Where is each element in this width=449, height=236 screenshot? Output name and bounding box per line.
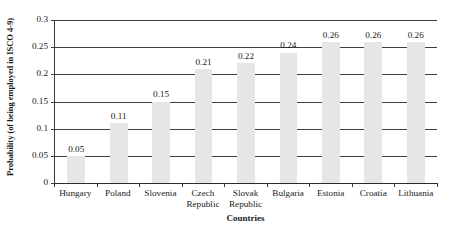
x-axis-title: Countries	[54, 213, 437, 223]
bar: 0.22	[237, 63, 255, 183]
y-axis-tick-label: 0.15	[32, 97, 48, 106]
x-axis-category-label: Hungary	[54, 188, 97, 209]
x-axis-category-label: Poland	[97, 188, 140, 209]
x-axis-category-label-line: Slovenia	[139, 188, 182, 199]
y-axis-title: Probability (of being employed in ISCO 4…	[3, 4, 17, 190]
x-axis-category-label-line: Slovak	[224, 188, 267, 199]
x-axis-category-label-line: Czech	[182, 188, 225, 199]
y-axis-tick-label-group: 00.050.10.150.20.250.3	[18, 20, 52, 183]
x-axis-category-label: CzechRepublic	[182, 188, 225, 209]
x-axis-category-label-line: Poland	[97, 188, 140, 199]
bar: 0.21	[195, 69, 213, 183]
x-axis-category-label-line: Croatia	[352, 188, 395, 199]
x-axis-tick-mark	[394, 183, 395, 187]
x-axis-tick-mark	[139, 183, 140, 187]
bar-value-label: 0.15	[153, 90, 169, 99]
bar-value-label: 0.26	[365, 31, 381, 40]
x-axis-category-label: Bulgaria	[267, 188, 310, 209]
x-axis-tick-mark	[352, 183, 353, 187]
x-axis-tick-mark	[97, 183, 98, 187]
bar-slot: 0.15	[140, 20, 182, 183]
bar-slot: 0.26	[352, 20, 394, 183]
bar: 0.26	[407, 42, 425, 183]
x-axis-category-label: Croatia	[352, 188, 395, 209]
bar: 0.15	[152, 102, 170, 184]
bar: 0.11	[110, 123, 128, 183]
y-axis-tick-label: 0.05	[32, 151, 48, 160]
x-axis-category-label: Lithuania	[395, 188, 438, 209]
x-axis-category-label: SlovakRepublic	[224, 188, 267, 209]
bar-value-label: 0.05	[68, 145, 84, 154]
x-axis-tick-mark	[267, 183, 268, 187]
y-axis-tick-label: 0.2	[37, 70, 48, 79]
bar: 0.24	[280, 53, 298, 183]
x-axis-category-label-line: Lithuania	[395, 188, 438, 199]
x-axis-category-label: Estonia	[309, 188, 352, 209]
bar-slot: 0.11	[97, 20, 139, 183]
y-axis-tick-label: 0	[43, 178, 48, 187]
bar-slot: 0.26	[395, 20, 437, 183]
x-axis-category-label-line: Republic	[224, 199, 267, 210]
bar-slot: 0.05	[55, 20, 97, 183]
bar-slot: 0.21	[182, 20, 224, 183]
x-axis-category-label-line: Hungary	[54, 188, 97, 199]
y-axis-tick-label: 0.25	[32, 43, 48, 52]
x-axis-tick-mark	[224, 183, 225, 187]
plot-area: 0.050.110.150.210.220.240.260.260.26	[54, 20, 437, 183]
y-axis-tick-label: 0.3	[37, 15, 48, 24]
bar-value-label: 0.11	[111, 112, 127, 121]
bar-slot: 0.26	[310, 20, 352, 183]
bar-value-label: 0.26	[323, 31, 339, 40]
bar-slot: 0.24	[267, 20, 309, 183]
bar: 0.26	[322, 42, 340, 183]
x-axis-category-label-line: Republic	[182, 199, 225, 210]
bar-slot: 0.22	[225, 20, 267, 183]
x-axis-tick-mark	[54, 183, 55, 187]
bar-value-label: 0.24	[280, 41, 296, 50]
bar: 0.26	[364, 42, 382, 183]
x-axis-category-label: Slovenia	[139, 188, 182, 209]
x-axis-category-label-line: Estonia	[309, 188, 352, 199]
bar-chart-figure: Probability (of being employed in ISCO 4…	[0, 0, 449, 236]
x-axis-tick-mark	[437, 183, 438, 187]
y-axis-tick-label: 0.1	[37, 124, 48, 133]
x-axis-category-label-group: HungaryPolandSloveniaCzechRepublicSlovak…	[54, 188, 437, 209]
bar-value-label: 0.21	[195, 58, 211, 67]
x-axis-tick-mark	[182, 183, 183, 187]
x-axis-tick-mark	[309, 183, 310, 187]
bar-value-label: 0.26	[408, 31, 424, 40]
bars-layer: 0.050.110.150.210.220.240.260.260.26	[55, 20, 437, 183]
bar: 0.05	[67, 156, 85, 183]
bar-value-label: 0.22	[238, 52, 254, 61]
x-axis-category-label-line: Bulgaria	[267, 188, 310, 199]
